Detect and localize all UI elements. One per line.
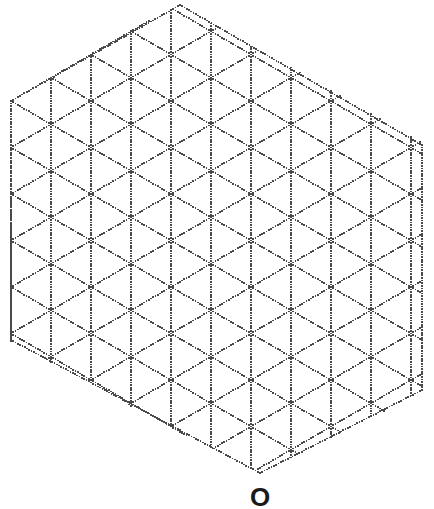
grid-dots <box>10 4 423 474</box>
bottom-marker-label: O <box>43 484 434 509</box>
figure-root: O <box>0 0 434 509</box>
isometric-grid-canvas <box>0 0 434 509</box>
